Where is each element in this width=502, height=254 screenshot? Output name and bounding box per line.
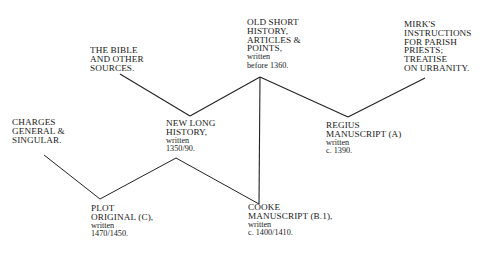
edge-newlong-cooke: [176, 158, 259, 204]
node-bible-sources: THE BIBLE AND OTHER SOURCES.: [90, 46, 144, 72]
node-charges: CHARGES GENERAL & SINGULAR.: [12, 118, 65, 144]
node-old-short-history: OLD SHORT HISTORY, ARTICLES & POINTS, wr…: [247, 18, 301, 71]
edge-newlong-oldshort: [190, 77, 260, 116]
node-date: 1350/90.: [166, 145, 215, 154]
edge-charges-plot: [44, 155, 100, 199]
node-label: SOURCES.: [90, 64, 144, 73]
node-cooke-manuscript: COOKE MANUSCRIPT (B.1), written c. 1400/…: [248, 203, 333, 238]
node-date: c. 1400/1410.: [248, 229, 333, 238]
edge-regius-mirk: [348, 78, 425, 117]
node-new-long-history: NEW LONG HISTORY, written 1350/90.: [166, 119, 215, 154]
stemma-diagram: THE BIBLE AND OTHER SOURCES. OLD SHORT H…: [0, 0, 502, 254]
node-label: ON URBANITY.: [404, 64, 472, 73]
edge-oldshort-cooke: [259, 77, 260, 204]
node-mirks-instructions: MIRK'S INSTRUCTIONS FOR PARISH PRIESTS; …: [404, 20, 472, 73]
edge-bible-newlong: [120, 74, 190, 116]
node-date: c. 1390.: [326, 147, 402, 156]
edge-oldshort-regius: [260, 77, 348, 117]
edge-plot-newlong: [100, 158, 176, 199]
node-regius-manuscript: REGIUS MANUSCRIPT (A) written c. 1390.: [326, 121, 402, 156]
node-label: SINGULAR.: [12, 136, 65, 145]
node-date: before 1360.: [247, 62, 301, 71]
node-plot-original: PLOT ORIGINAL (C), written 1470/1450.: [91, 204, 153, 239]
node-date: 1470/1450.: [91, 230, 153, 239]
